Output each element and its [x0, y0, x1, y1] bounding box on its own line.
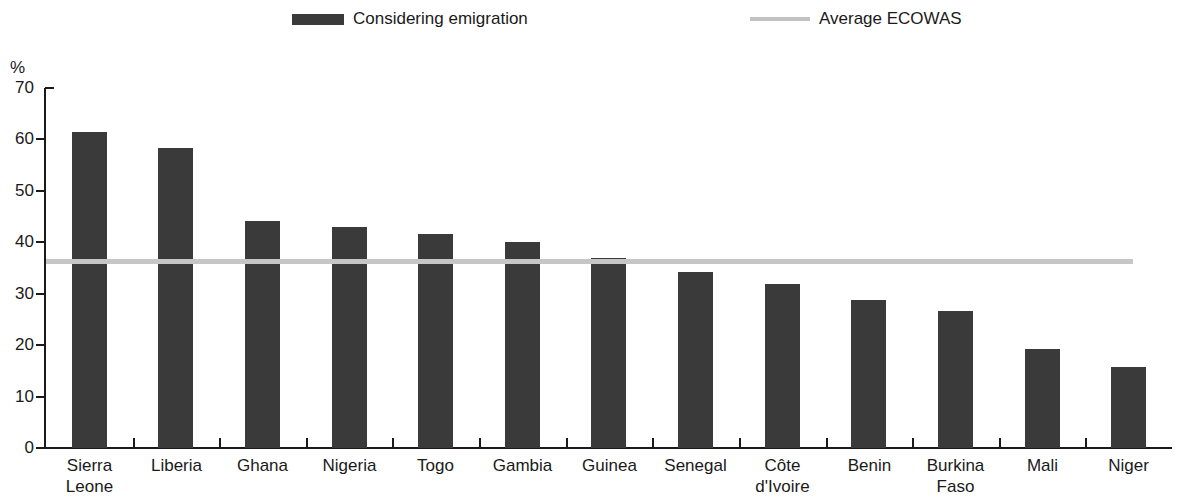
x-axis-label-line: Liberia: [133, 455, 220, 476]
x-axis-label: Liberia: [133, 455, 220, 476]
x-axis-tick: [652, 438, 654, 448]
x-axis-label-line: Benin: [826, 455, 913, 476]
x-axis-label-line: Nigeria: [306, 455, 393, 476]
x-axis-label: Gambia: [479, 455, 566, 476]
x-axis-label-line: Burkina: [912, 455, 999, 476]
x-axis-label: Togo: [392, 455, 479, 476]
y-axis-tick-label: 10: [4, 388, 34, 405]
x-axis-label: SierraLeone: [46, 455, 133, 497]
y-axis-unit-label: %: [10, 58, 25, 78]
bar: [158, 148, 193, 448]
x-axis-label-line: d'Ivoire: [739, 476, 826, 497]
y-axis-tick: [36, 190, 45, 192]
x-axis-label-line: Sierra: [46, 455, 133, 476]
x-axis-tick: [826, 438, 828, 448]
x-axis-label-line: Faso: [912, 476, 999, 497]
x-axis-label: Nigeria: [306, 455, 393, 476]
x-axis-tick: [566, 438, 568, 448]
x-axis-tick: [479, 438, 481, 448]
x-axis-label: Ghana: [219, 455, 306, 476]
x-axis-label-line: Mali: [999, 455, 1086, 476]
y-axis-tick: [36, 396, 45, 398]
x-axis-tick: [219, 438, 221, 448]
x-axis-label-line: Togo: [392, 455, 479, 476]
x-axis-tick: [1085, 438, 1087, 448]
x-axis-label: Guinea: [566, 455, 653, 476]
plot-area: % 706050403020100 SierraLeoneLiberiaGhan…: [0, 0, 1181, 498]
x-axis-label-line: Niger: [1085, 455, 1172, 476]
bar: [505, 242, 540, 448]
x-axis-label: BurkinaFaso: [912, 455, 999, 497]
y-axis-tick: [36, 447, 45, 449]
x-axis-label: Benin: [826, 455, 913, 476]
bar: [678, 272, 713, 448]
bar: [591, 258, 626, 448]
x-axis-label: Mali: [999, 455, 1086, 476]
x-axis-label-line: Leone: [46, 476, 133, 497]
y-axis-tick: [36, 293, 45, 295]
bar: [938, 311, 973, 448]
x-axis-tick: [133, 438, 135, 448]
bar: [1025, 349, 1060, 448]
x-axis-tick: [306, 438, 308, 448]
y-axis-tick: [36, 138, 45, 140]
x-axis-tick: [999, 438, 1001, 448]
average-ecowas-reference-line: [46, 259, 1133, 264]
y-axis-tick-label: 60: [4, 130, 34, 147]
x-axis-tick: [739, 438, 741, 448]
x-axis-tick: [912, 438, 914, 448]
y-axis-tick: [36, 344, 45, 346]
y-axis-tick-label: 70: [4, 79, 34, 96]
y-axis-tick-label: 0: [4, 439, 34, 456]
x-axis-label-line: Guinea: [566, 455, 653, 476]
bar: [72, 132, 107, 448]
bar: [418, 234, 453, 448]
bar: [765, 284, 800, 448]
y-axis-tick: [36, 241, 45, 243]
y-axis-tick-label: 40: [4, 233, 34, 250]
bar: [245, 221, 280, 448]
chart-figure: Considering emigration Average ECOWAS % …: [0, 0, 1181, 498]
bar: [851, 300, 886, 448]
y-axis-tick: [45, 87, 54, 89]
x-axis-label-line: Gambia: [479, 455, 566, 476]
x-axis-tick: [392, 438, 394, 448]
x-axis-label-line: Côte: [739, 455, 826, 476]
x-axis-label: Côted'Ivoire: [739, 455, 826, 497]
x-axis-label: Senegal: [652, 455, 739, 476]
y-axis-tick-label: 20: [4, 336, 34, 353]
y-axis-tick-label: 30: [4, 285, 34, 302]
y-axis-tick-label: 50: [4, 182, 34, 199]
x-axis-label: Niger: [1085, 455, 1172, 476]
x-axis-label-line: Ghana: [219, 455, 306, 476]
bar: [1111, 367, 1146, 448]
x-axis-label-line: Senegal: [652, 455, 739, 476]
